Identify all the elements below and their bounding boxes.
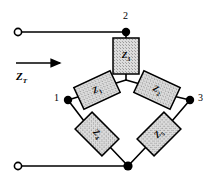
zt-symbol: Z: [16, 70, 23, 82]
node-bottom-dot: [123, 161, 132, 170]
node-1-dot: [64, 96, 72, 104]
zt-subscript: T: [23, 77, 27, 85]
circuit-diagram: 2 1 3 ZT Z3 Z1 Z2 Z4 Z5: [0, 0, 213, 178]
node-1-label: 1: [54, 92, 59, 103]
z3-subscript: 3: [127, 56, 130, 62]
total-impedance-label: ZT: [16, 70, 27, 85]
bottom-left-terminal: [14, 162, 21, 169]
node-3-dot: [186, 96, 194, 104]
node-2-dot: [122, 28, 130, 36]
top-left-terminal: [14, 28, 21, 35]
schematic-canvas: [0, 0, 213, 178]
impedance-z3-label: Z3: [122, 50, 131, 62]
node-2-label: 2: [123, 10, 128, 21]
node-3-label: 3: [198, 92, 203, 103]
